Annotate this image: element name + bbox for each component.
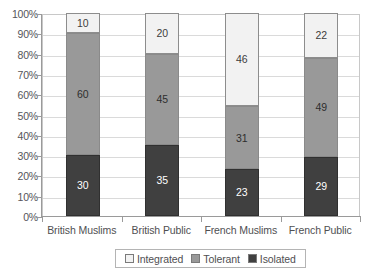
y-axis-tick-label: 20% <box>18 170 38 182</box>
bar-stack: 306010 <box>66 15 100 216</box>
bar-segment-value: 45 <box>157 94 168 105</box>
legend-swatch-icon <box>248 254 257 263</box>
bar-segment-value: 20 <box>157 28 168 39</box>
x-axis-category-labels: British MuslimsBritish PublicFrench Musl… <box>42 224 360 240</box>
y-axis-tick-labels: 0%10%20%30%40%50%60%70%80%90%100% <box>0 11 38 217</box>
bar-group[interactable]: 233146 <box>225 15 259 216</box>
bar-stack: 354520 <box>145 15 179 216</box>
bar-segment-value: 29 <box>316 181 327 192</box>
bar-segment-value: 60 <box>77 89 88 100</box>
y-axis-tick-label: 80% <box>18 49 38 61</box>
bar-segment-value: 23 <box>236 187 247 198</box>
bar-segment-isolated[interactable]: 35 <box>145 145 179 216</box>
y-axis-tick-label: 100% <box>12 8 38 20</box>
y-axis-tick <box>36 197 42 198</box>
legend-swatch-icon <box>191 254 200 263</box>
legend-label: Integrated <box>137 253 183 265</box>
bar-segment-isolated[interactable]: 23 <box>225 169 259 216</box>
bar-stack: 233146 <box>225 15 259 216</box>
y-axis-tick-label: 30% <box>18 150 38 162</box>
x-axis-category-label: French Muslims <box>204 224 277 236</box>
bar-group[interactable]: 306010 <box>66 15 100 216</box>
x-axis-tick <box>201 217 202 222</box>
bar-segment-value: 49 <box>316 102 327 113</box>
bar-segment-value: 10 <box>77 18 88 29</box>
bar-group[interactable]: 354520 <box>145 15 179 216</box>
bar-segment-isolated[interactable]: 30 <box>66 155 100 216</box>
y-axis-tick <box>36 95 42 96</box>
stacked-bar-chart: 0%10%20%30%40%50%60%70%80%90%100% 306010… <box>0 0 388 276</box>
x-axis-tick <box>42 217 43 222</box>
bar-segment-integrated[interactable]: 20 <box>145 13 179 54</box>
x-axis-category-label: British Muslims <box>47 224 116 236</box>
bar-segment-integrated[interactable]: 10 <box>66 13 100 33</box>
plot-area: 306010354520233146294922 <box>42 14 360 217</box>
bar-segment-value: 31 <box>236 133 247 144</box>
bar-stack: 294922 <box>304 15 338 216</box>
bar-segment-value: 46 <box>236 54 247 65</box>
y-axis-tick <box>36 34 42 35</box>
bars-layer: 306010354520233146294922 <box>43 15 359 216</box>
bar-segment-value: 30 <box>77 180 88 191</box>
chart-legend: IntegratedTolerantIsolated <box>115 249 306 268</box>
y-axis-tick-label: 40% <box>18 130 38 142</box>
bar-segment-isolated[interactable]: 29 <box>304 157 338 216</box>
y-axis-tick-label: 90% <box>18 28 38 40</box>
y-axis-tick-label: 60% <box>18 89 38 101</box>
bar-segment-tolerant[interactable]: 60 <box>66 33 100 155</box>
x-axis-tick <box>360 217 361 222</box>
y-axis-tick <box>36 14 42 15</box>
y-axis-tick <box>36 156 42 157</box>
x-axis-tick <box>122 217 123 222</box>
y-axis-tick <box>36 116 42 117</box>
y-axis-tick <box>36 55 42 56</box>
x-axis-tick <box>281 217 282 222</box>
legend-item-integrated[interactable]: Integrated <box>125 253 183 265</box>
legend-label: Isolated <box>260 253 296 265</box>
x-axis-category-label: British Public <box>132 224 191 236</box>
bar-segment-value: 35 <box>157 175 168 186</box>
bar-group[interactable]: 294922 <box>304 15 338 216</box>
legend-item-isolated[interactable]: Isolated <box>248 253 296 265</box>
y-axis-tick-label: 50% <box>18 110 38 122</box>
bar-segment-tolerant[interactable]: 49 <box>304 58 338 157</box>
y-axis-tick <box>36 136 42 137</box>
y-axis-tick-label: 10% <box>18 191 38 203</box>
y-axis-tick <box>36 176 42 177</box>
y-axis-tick <box>36 75 42 76</box>
bar-segment-value: 22 <box>316 30 327 41</box>
bar-segment-integrated[interactable]: 46 <box>225 13 259 106</box>
bar-segment-tolerant[interactable]: 45 <box>145 54 179 145</box>
y-axis-tick-label: 70% <box>18 69 38 81</box>
legend-label: Tolerant <box>203 253 240 265</box>
legend-swatch-icon <box>125 254 134 263</box>
bar-segment-tolerant[interactable]: 31 <box>225 106 259 169</box>
legend-item-tolerant[interactable]: Tolerant <box>191 253 240 265</box>
x-axis-category-label: French Public <box>289 224 352 236</box>
bar-segment-integrated[interactable]: 22 <box>304 13 338 58</box>
